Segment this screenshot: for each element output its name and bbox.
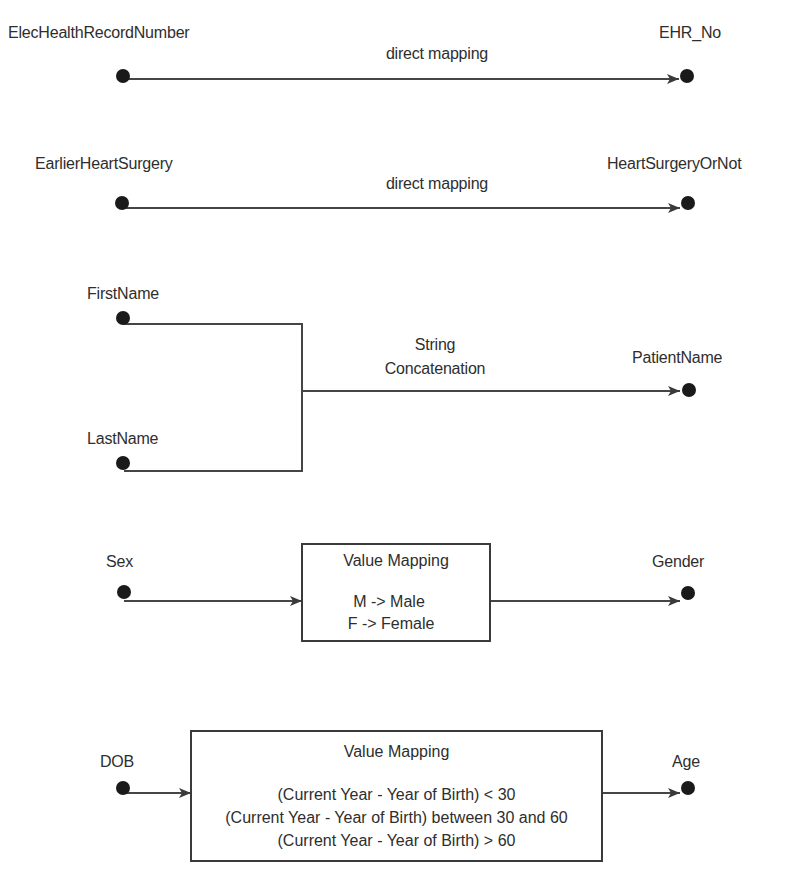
value-mapping-box-dob-age: Value Mapping (Current Year - Year of Bi… [190,730,603,862]
rule-over-60: (Current Year - Year of Birth) > 60 [192,830,601,852]
source-label-earlierheartsurgery: EarlierHeartSurgery [35,155,173,173]
node-dot-elechealthrecordnumber [116,69,130,83]
source-label-lastname: LastName [87,430,158,448]
target-label-ehr-no: EHR_No [640,24,740,42]
rule-30-to-60: (Current Year - Year of Birth) between 3… [192,807,601,829]
source-label-elechealthrecordnumber: ElecHealthRecordNumber [8,24,189,42]
target-label-gender: Gender [652,553,704,571]
rule-m-male: M -> Male [289,591,489,613]
target-label-age: Age [672,753,700,771]
node-dot-age [681,781,695,795]
transform-label-string: String [355,336,515,354]
node-dot-lastname [116,456,130,470]
source-label-dob: DOB [100,753,134,771]
box-title: Value Mapping [303,552,489,570]
node-dot-heartsurgeryornot [681,196,695,210]
target-label-heartsurgeryornot: HeartSurgeryOrNot [607,155,741,173]
edge-firstname [124,324,302,471]
rule-under-30: (Current Year - Year of Birth) < 30 [192,784,601,806]
node-dot-sex [117,585,131,599]
target-label-patientname: PatientName [632,349,722,367]
transform-label-direct-mapping: direct mapping [357,175,517,193]
node-dot-firstname [116,311,130,325]
transform-label-direct-mapping: direct mapping [357,45,517,63]
node-dot-dob [116,781,130,795]
source-label-sex: Sex [106,553,133,571]
node-dot-gender [681,586,695,600]
value-mapping-box-sex-gender: Value Mapping M -> Male F -> Female [301,543,491,642]
node-dot-earlierheartsurgery [115,196,129,210]
node-dot-ehr-no [680,69,694,83]
node-dot-patientname [682,383,696,397]
transform-label-concatenation: Concatenation [355,360,515,378]
source-label-firstname: FirstName [87,285,159,303]
rule-f-female: F -> Female [293,613,489,635]
box-title: Value Mapping [192,743,601,761]
